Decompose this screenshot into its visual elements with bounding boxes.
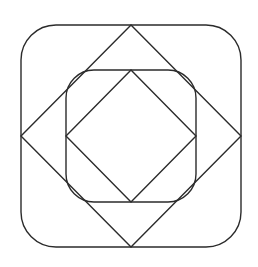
inner-diamond bbox=[66, 70, 196, 202]
inner-rounded-square bbox=[66, 70, 196, 202]
outer-rounded-square bbox=[21, 25, 241, 247]
geometric-figure bbox=[0, 0, 258, 267]
diagram-canvas bbox=[0, 0, 258, 267]
outer-diamond bbox=[21, 25, 241, 247]
